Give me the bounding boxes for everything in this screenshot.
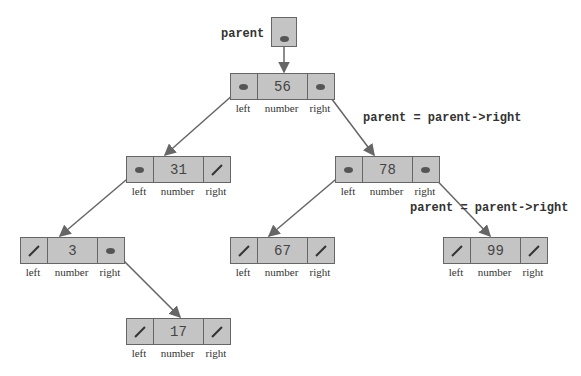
left-label: left	[126, 347, 152, 359]
right-cell	[204, 157, 230, 182]
number-label: number	[256, 266, 307, 278]
left-cell	[21, 238, 47, 263]
pointer-dot-icon	[316, 84, 325, 90]
null-slash-icon	[211, 326, 222, 337]
tree-node-67: 67	[230, 237, 335, 264]
null-slash-icon	[451, 245, 462, 256]
tree-diagram: parent parent = parent->right parent = p…	[0, 0, 581, 376]
pointer-dot-icon	[421, 167, 430, 173]
pointer-dot-icon	[344, 167, 353, 173]
left-label: left	[335, 185, 361, 197]
annotation-2: parent = parent->right	[410, 201, 568, 215]
number-cell: 78	[362, 157, 413, 182]
left-label: left	[443, 266, 469, 278]
left-label: left	[126, 185, 152, 197]
number-label: number	[46, 266, 97, 278]
left-label: left	[230, 266, 256, 278]
annotation-1: parent = parent->right	[363, 111, 521, 125]
left-cell	[231, 74, 257, 99]
right-label: right	[203, 347, 229, 359]
field-labels: left number right	[230, 102, 333, 114]
left-cell	[336, 157, 362, 182]
number-cell: 3	[47, 238, 98, 263]
tree-node-3: 3	[20, 237, 125, 264]
tree-node-56: 56	[230, 73, 335, 100]
right-label: right	[307, 266, 333, 278]
number-label: number	[469, 266, 520, 278]
number-cell: 31	[153, 157, 204, 182]
right-label: right	[97, 266, 123, 278]
right-label: right	[412, 185, 438, 197]
null-slash-icon	[528, 245, 539, 256]
left-cell	[127, 157, 153, 182]
left-cell	[444, 238, 470, 263]
tree-node-17: 17	[126, 318, 231, 345]
left-label: left	[230, 102, 256, 114]
edge-layer	[0, 0, 581, 376]
field-labels: left number right	[126, 347, 229, 359]
field-labels: left number right	[443, 266, 546, 278]
field-labels: left number right	[335, 185, 438, 197]
number-label: number	[256, 102, 307, 114]
right-cell	[521, 238, 547, 263]
number-cell: 99	[470, 238, 521, 263]
parent-pointer-box	[271, 17, 297, 47]
field-labels: left number right	[230, 266, 333, 278]
right-cell	[98, 238, 124, 263]
right-cell	[413, 157, 439, 182]
right-cell	[308, 238, 334, 263]
null-slash-icon	[28, 245, 39, 256]
null-slash-icon	[315, 245, 326, 256]
pointer-dot-icon	[106, 248, 115, 254]
pointer-dot-icon	[239, 84, 248, 90]
number-label: number	[152, 185, 203, 197]
number-label: number	[361, 185, 412, 197]
left-label: left	[20, 266, 46, 278]
pointer-dot-icon	[280, 36, 289, 42]
left-cell	[231, 238, 257, 263]
number-cell: 67	[257, 238, 308, 263]
null-slash-icon	[134, 326, 145, 337]
number-cell: 56	[257, 74, 308, 99]
parent-label: parent	[221, 27, 264, 41]
field-labels: left number right	[20, 266, 123, 278]
null-slash-icon	[211, 164, 222, 175]
field-labels: left number right	[126, 185, 229, 197]
right-cell	[308, 74, 334, 99]
tree-node-31: 31	[126, 156, 231, 183]
number-label: number	[152, 347, 203, 359]
tree-node-78: 78	[335, 156, 440, 183]
null-slash-icon	[238, 245, 249, 256]
number-cell: 17	[153, 319, 204, 344]
right-label: right	[203, 185, 229, 197]
pointer-dot-icon	[135, 167, 144, 173]
right-cell	[204, 319, 230, 344]
right-label: right	[520, 266, 546, 278]
tree-node-99: 99	[443, 237, 548, 264]
left-cell	[127, 319, 153, 344]
right-label: right	[307, 102, 333, 114]
